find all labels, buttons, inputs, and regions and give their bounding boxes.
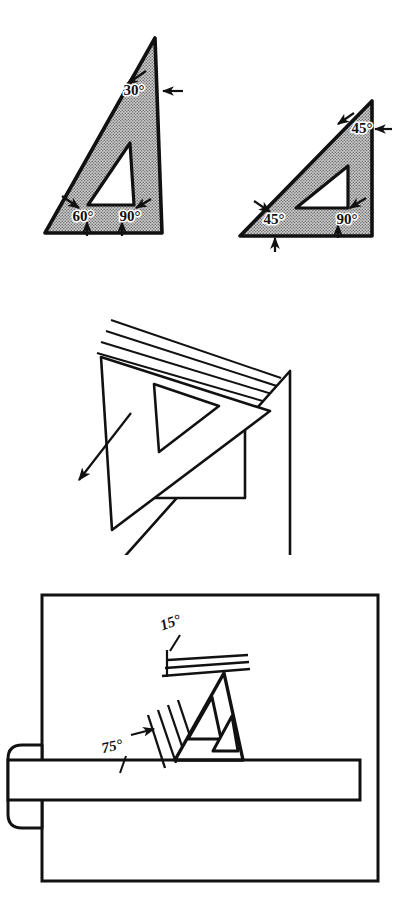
angle-label-60: 60° (73, 208, 94, 224)
t-square-blade (8, 760, 360, 800)
figure-root: 30° 60° 90° 45° 45° 90° (0, 0, 401, 903)
forty-five-degree-triangle: 45° 45° 90° (240, 101, 392, 252)
angle-label-45-left: 45° (264, 211, 285, 227)
standard-triangles-panel: 30° 60° 90° 45° 45° 90° (0, 0, 401, 290)
thirty-sixty-ninety-triangle: 30° 60° 90° (45, 38, 183, 236)
angle-label-30: 30° (124, 82, 145, 98)
sliding-triangles-panel (0, 290, 401, 555)
angle-label-90-left: 90° (120, 208, 141, 224)
angle-label-45-top: 45° (352, 120, 373, 136)
angle-label-90-right: 90° (337, 211, 358, 227)
drawing-board-panel: 15° 75° (0, 555, 401, 903)
